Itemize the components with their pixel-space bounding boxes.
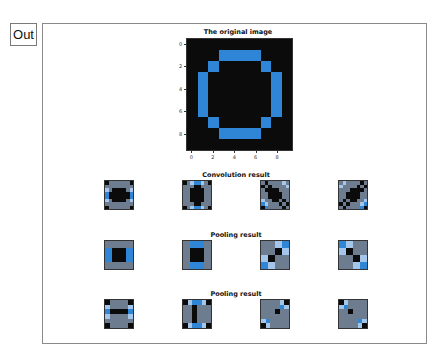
- convolution-panel: [104, 180, 134, 210]
- y-tick-label: 4: [179, 86, 182, 92]
- pooling-2-panel: [104, 299, 134, 329]
- y-tick-label: 6: [179, 108, 182, 114]
- y-tick-label: 0: [179, 41, 182, 47]
- pooling-panel: [338, 240, 368, 270]
- pooling-panel: [260, 240, 290, 270]
- output-label: Out: [10, 23, 37, 46]
- convolution-panel: [338, 180, 368, 210]
- original-image-heatmap: [186, 38, 293, 151]
- convolution-title: Convolution result: [202, 171, 270, 179]
- convolution-panel: [182, 180, 212, 210]
- x-tick-label: 4: [233, 154, 236, 160]
- convolution-panel: [260, 180, 290, 210]
- pooling-2-panel: [338, 299, 368, 329]
- pooling-2-title: Pooling result: [210, 290, 261, 298]
- x-tick-label: 0: [190, 154, 193, 160]
- x-tick-label: 2: [211, 154, 214, 160]
- y-tick-label: 2: [179, 63, 182, 69]
- x-tick-label: 8: [275, 154, 278, 160]
- original-image-title: The original image: [204, 28, 272, 36]
- y-tick-label: 8: [179, 131, 182, 137]
- x-tick-label: 6: [254, 154, 257, 160]
- pooling-2-panel: [260, 299, 290, 329]
- pooling-2-panel: [182, 299, 212, 329]
- pooling-title: Pooling result: [210, 231, 261, 239]
- pooling-panel: [104, 240, 134, 270]
- pooling-panel: [182, 240, 212, 270]
